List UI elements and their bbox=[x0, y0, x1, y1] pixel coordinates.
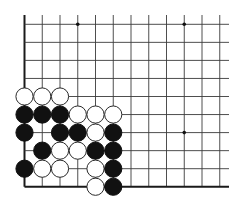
white-stone bbox=[51, 160, 68, 177]
black-stone bbox=[16, 106, 33, 123]
stones bbox=[16, 88, 122, 195]
black-stone bbox=[16, 124, 33, 141]
go-board bbox=[0, 0, 238, 203]
white-stone bbox=[87, 106, 104, 123]
white-stone bbox=[105, 106, 122, 123]
white-stone bbox=[51, 142, 68, 159]
star-point-icon bbox=[182, 23, 186, 27]
white-stone bbox=[16, 88, 33, 105]
black-stone bbox=[34, 106, 51, 123]
white-stone bbox=[87, 124, 104, 141]
black-stone bbox=[87, 142, 104, 159]
black-stone bbox=[16, 160, 33, 177]
black-stone bbox=[105, 160, 122, 177]
star-point-icon bbox=[76, 23, 80, 27]
black-stone bbox=[105, 178, 122, 195]
white-stone bbox=[51, 88, 68, 105]
white-stone bbox=[69, 106, 86, 123]
black-stone bbox=[105, 124, 122, 141]
black-stone bbox=[105, 142, 122, 159]
white-stone bbox=[87, 160, 104, 177]
black-stone bbox=[51, 124, 68, 141]
white-stone bbox=[34, 160, 51, 177]
go-board-diagram bbox=[0, 0, 238, 203]
white-stone bbox=[87, 178, 104, 195]
black-stone bbox=[34, 142, 51, 159]
black-stone bbox=[69, 124, 86, 141]
black-stone bbox=[51, 106, 68, 123]
star-point-icon bbox=[182, 131, 186, 135]
white-stone bbox=[69, 142, 86, 159]
white-stone bbox=[34, 88, 51, 105]
